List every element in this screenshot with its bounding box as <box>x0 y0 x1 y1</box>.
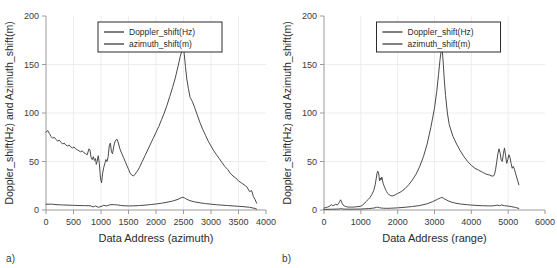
legend: Doppler_shift(Hz)azimuth_shift(m) <box>98 22 222 52</box>
figure-two-panel-line-charts: 0500100015002000250030003500400005010015… <box>0 0 557 268</box>
y-tick-label: 0 <box>312 205 317 215</box>
y-tick-label: 50 <box>29 157 39 167</box>
y-axis-label: Doppler_shift(Hz) and Azimuth_shift(m) <box>3 21 15 204</box>
subplot-label-b: b) <box>282 253 292 264</box>
x-tick-label: 500 <box>66 217 81 227</box>
y-axis-label: Doppler_shift(Hz) and Azimuth_shift(m) <box>281 21 293 204</box>
x-tick-label: 3000 <box>424 217 444 227</box>
legend-label-2: azimuth_shift(m) <box>129 39 192 49</box>
legend-label-1: Doppler_shift(Hz) <box>408 27 474 37</box>
x-tick-label: 2000 <box>146 217 166 227</box>
panel-b: 0100020003000400050006000050100150200Dop… <box>278 0 557 268</box>
legend-label-1: Doppler_shift(Hz) <box>129 27 195 37</box>
x-axis-label: Data Address (range) <box>382 232 487 244</box>
y-tick-label: 150 <box>24 60 39 70</box>
x-axis-label: Data Address (azimuth) <box>99 232 214 244</box>
x-tick-label: 3000 <box>201 217 221 227</box>
y-tick-label: 200 <box>24 11 39 21</box>
y-tick-label: 0 <box>34 205 39 215</box>
x-tick-label: 2500 <box>173 217 193 227</box>
chart-a: 0500100015002000250030003500400005010015… <box>0 0 278 268</box>
y-tick-label: 200 <box>302 11 317 21</box>
y-tick-label: 150 <box>302 60 317 70</box>
legend: Doppler_shift(Hz)azimuth_shift(m) <box>377 22 501 52</box>
y-tick-label: 100 <box>24 108 39 118</box>
subplot-label-a: a) <box>6 253 16 264</box>
x-tick-label: 2000 <box>388 217 408 227</box>
x-tick-label: 0 <box>321 217 326 227</box>
x-tick-label: 1500 <box>118 217 138 227</box>
plot-area: 0100020003000400050006000050100150200Dop… <box>278 0 557 268</box>
x-tick-label: 6000 <box>535 217 555 227</box>
chart-b: 0100020003000400050006000050100150200Dop… <box>278 0 557 268</box>
x-tick-label: 5000 <box>498 217 518 227</box>
plot-area: 0500100015002000250030003500400005010015… <box>0 0 278 268</box>
x-tick-label: 4000 <box>461 217 481 227</box>
y-tick-label: 50 <box>307 157 317 167</box>
panel-a: 0500100015002000250030003500400005010015… <box>0 0 278 268</box>
x-tick-label: 1000 <box>91 217 111 227</box>
x-tick-label: 1000 <box>351 217 371 227</box>
y-tick-label: 100 <box>302 108 317 118</box>
x-tick-label: 4000 <box>256 217 276 227</box>
x-tick-label: 0 <box>43 217 48 227</box>
x-tick-label: 3500 <box>228 217 248 227</box>
legend-label-2: azimuth_shift(m) <box>408 39 471 49</box>
